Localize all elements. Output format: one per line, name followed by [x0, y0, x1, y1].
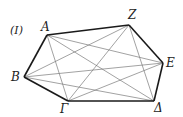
edge-A-Z — [47, 25, 129, 35]
vertex-label-A: A — [40, 20, 50, 34]
edge-Z-E — [129, 25, 163, 63]
diagonal-Z-Γ — [68, 25, 129, 101]
diagonals — [24, 25, 163, 101]
diagonal-E-B — [24, 63, 163, 77]
diagonal-A-E — [47, 35, 163, 63]
edge-B-A — [24, 35, 47, 77]
vertex-label-E: E — [165, 56, 175, 70]
hexagon-diagram: (I) AZEΔΓB — [0, 0, 183, 117]
diagonal-E-Γ — [68, 63, 163, 101]
vertex-label-Z: Z — [127, 8, 137, 22]
vertex-label-Δ: Δ — [153, 101, 163, 115]
figure-label: (I) — [10, 24, 23, 37]
vertex-label-Γ: Γ — [59, 102, 69, 116]
vertex-labels: AZEΔΓB — [10, 8, 175, 116]
vertex-label-B: B — [10, 70, 20, 84]
edge-E-Δ — [154, 63, 163, 101]
diagonal-Z-Δ — [129, 25, 154, 101]
